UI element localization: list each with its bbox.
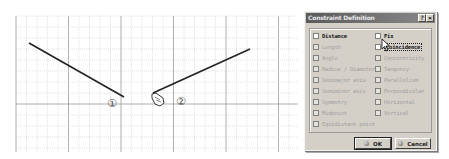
checkbox-label: Perpendicular [384,88,424,94]
checkbox-label: Concentricity [384,55,424,61]
checkbox-label: Symmetry [322,99,347,105]
checkbox-parallelism: Parallelism [375,75,418,84]
marker-2: ② [176,96,186,107]
checkbox-box [313,99,319,105]
checkbox-label: Semiminor axis [322,88,366,94]
checkbox-distance[interactable]: Distance [313,31,347,40]
dialog-titlebar[interactable]: Constraint Definition [306,13,435,23]
checkbox-semiminor-axis: Semiminor axis [313,86,366,95]
checkbox-label: Angle [322,55,338,61]
checkbox-box [313,44,319,50]
close-button[interactable]: × [426,14,434,22]
checkbox-tangency: Tangency [375,64,409,73]
checkbox-box [313,66,319,72]
checkbox-label: Horizontal [384,99,415,105]
marker-1: ① [107,98,117,109]
cancel-button[interactable]: Cancel [395,138,431,149]
cancel-label: Cancel [407,141,428,147]
checkbox-horizontal: Horizontal [375,97,415,106]
checkbox-equidistant-point: Equidistant point [313,119,375,128]
ok-icon [364,141,369,146]
ok-label: OK [373,141,382,147]
line-2[interactable] [153,49,250,93]
checkbox-box [313,110,319,116]
constraint-definition-dialog: Constraint Definition ? × DistanceLength… [304,11,437,151]
checkbox-label: Midpoint [322,110,347,116]
checkbox-semimajor-axis: Semimajor axis [313,75,366,84]
checkbox-box [375,110,381,116]
help-button[interactable]: ? [418,14,426,22]
checkbox-label: Radius / Diameter [322,66,375,72]
checkbox-concentricity: Concentricity [375,53,424,62]
checkbox-vertical: Vertical [375,108,409,117]
checkbox-symmetry: Symmetry [313,97,347,106]
checkbox-label: Equidistant point [322,121,375,127]
checkbox-box [313,55,319,61]
checkbox-box [313,88,319,94]
checkbox-box [375,55,381,61]
checkbox-box [375,66,381,72]
dialog-title: Constraint Definition [308,14,375,21]
arrow-cursor-icon [381,38,391,52]
cancel-icon [398,141,403,146]
checkbox-label: Semimajor axis [322,77,366,83]
checkbox-angle: Angle [313,53,338,62]
checkbox-box [313,121,319,127]
checkbox-label: Distance [322,33,347,39]
sketch-grid [16,16,298,152]
checkbox-box [375,77,381,83]
checkbox-label: Length [322,44,341,50]
ok-button[interactable]: OK [355,138,391,149]
checkbox-label: Vertical [384,110,409,116]
hand-pointer-icon [150,92,166,108]
checkbox-midpoint: Midpoint [313,108,347,117]
checkbox-perpendicular: Perpendicular [375,86,424,95]
checkbox-radius-diameter: Radius / Diameter [313,64,375,73]
checkbox-length: Length [313,42,341,51]
checkbox-label: Tangency [384,66,409,72]
checkbox-box [375,88,381,94]
checkbox-box [313,77,319,83]
checkbox-box[interactable] [313,33,319,39]
line-1[interactable] [29,43,124,97]
checkbox-box [375,99,381,105]
checkbox-label: Parallelism [384,77,418,83]
